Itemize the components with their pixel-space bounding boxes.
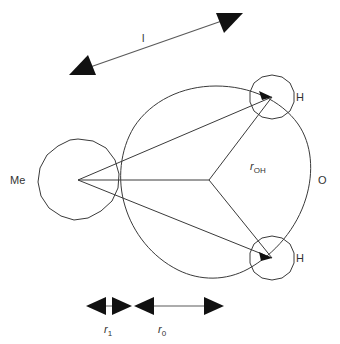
bond-o-to-h-bottom — [209, 180, 272, 258]
label-r-oh-subscript: OH — [254, 166, 266, 175]
atom-label-me: Me — [10, 174, 25, 186]
atom-label-o: O — [318, 174, 327, 186]
label-r0-subscript: 0 — [162, 329, 167, 338]
r1-arrow-head-right — [112, 297, 132, 315]
bond-arrow-nib-top — [259, 91, 272, 100]
label-r-oh: rOH — [250, 160, 266, 175]
atom-label-h-top: H — [296, 91, 304, 103]
atom-label-h-bottom: H — [296, 252, 304, 264]
label-l: l — [142, 32, 144, 44]
bond-me-to-h-bottom — [78, 180, 272, 258]
atom-outline-o — [121, 86, 311, 278]
molecular-diagram-figure: Me O H H rOH l r1 r0 — [0, 0, 340, 344]
bond-me-to-h-top — [78, 97, 272, 180]
r0-arrow-head-left — [134, 297, 154, 315]
label-r1-subscript: 1 — [108, 329, 113, 338]
label-r1: r1 — [104, 323, 113, 338]
l-arrow-shaft — [76, 16, 236, 72]
label-r0: r0 — [158, 323, 167, 338]
l-arrow-head-right — [216, 13, 243, 33]
diagram-canvas: Me O H H rOH l r1 r0 — [0, 0, 340, 344]
r0-arrow-head-right — [204, 297, 224, 315]
r1-arrow-head-left — [86, 297, 106, 315]
l-arrow-head-left — [69, 55, 96, 75]
